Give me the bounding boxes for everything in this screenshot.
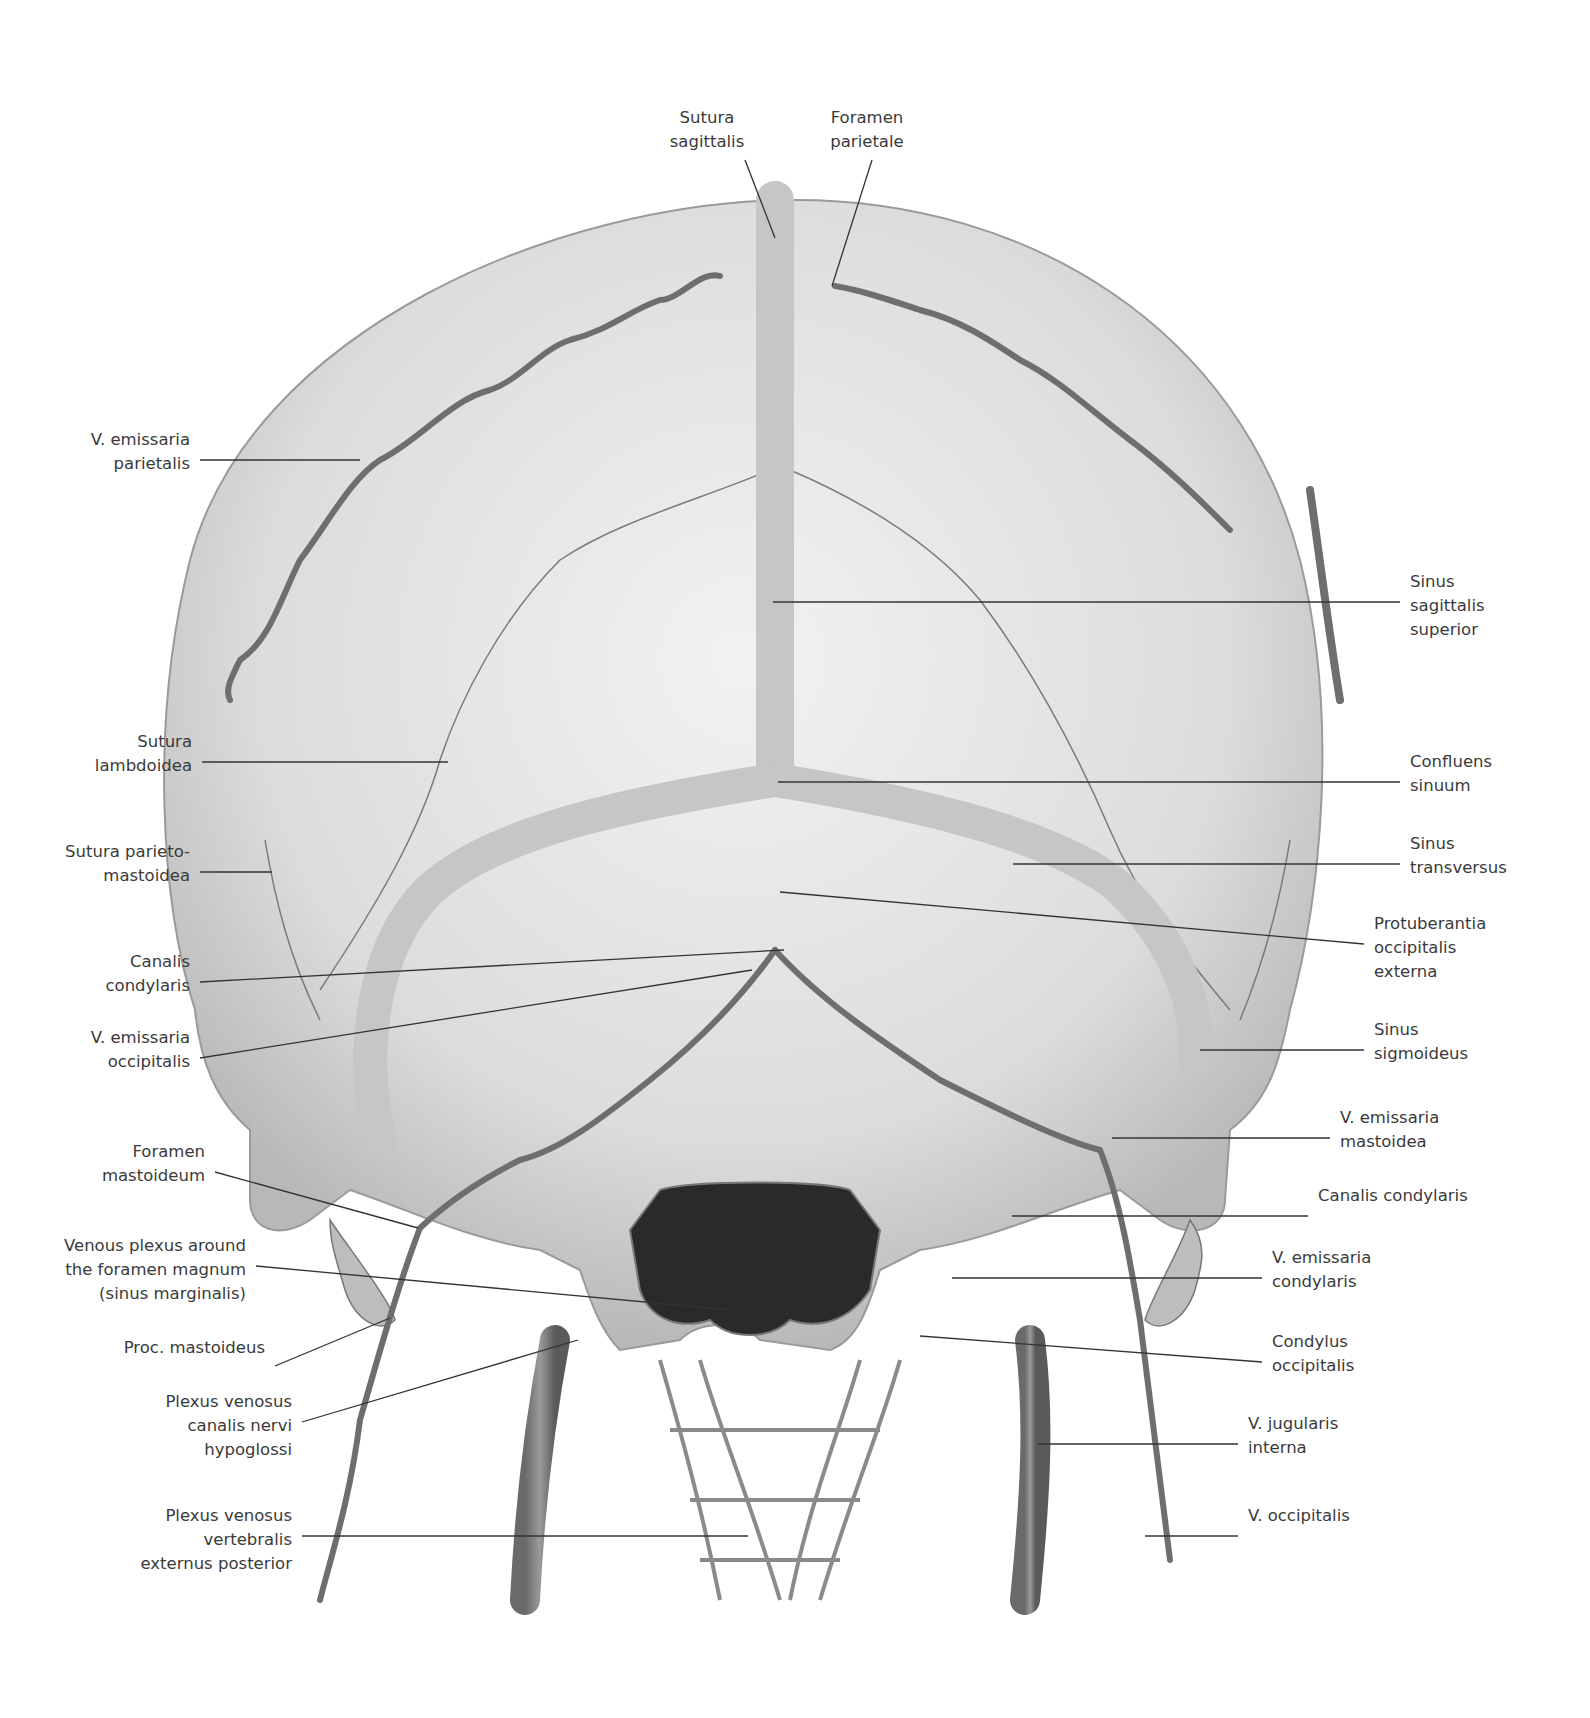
label-protuberantia-occipitalis-externa: Protuberantia occipitalis externa xyxy=(1374,912,1486,984)
label-foramen-parietale: Foramen parietale xyxy=(797,106,937,154)
label-plexus-venosus-vertebralis: Plexus venosus vertebralis externus post… xyxy=(140,1504,292,1576)
label-condylus-occipitalis: Condylus occipitalis xyxy=(1272,1330,1354,1378)
label-v-emissaria-parietalis: V. emissaria parietalis xyxy=(91,428,190,476)
label-sinus-sigmoideus: Sinus sigmoideus xyxy=(1374,1018,1468,1066)
label-sinus-transversus: Sinus transversus xyxy=(1410,832,1507,880)
label-sutura-sagittalis: Sutura sagittalis xyxy=(637,106,777,154)
label-plexus-venosus-canalis-hypoglossi: Plexus venosus canalis nervi hypoglossi xyxy=(165,1390,292,1462)
label-proc-mastoideus: Proc. mastoideus xyxy=(124,1336,265,1360)
vertebral-venous-plexus xyxy=(660,1360,900,1600)
anatomical-figure: Sutura sagittalisForamen parietaleV. emi… xyxy=(0,0,1590,1718)
label-foramen-mastoideum: Foramen mastoideum xyxy=(102,1140,205,1188)
label-sutura-lambdoidea: Sutura lambdoidea xyxy=(95,730,192,778)
leader-line-condylus-occipitalis xyxy=(920,1336,1262,1362)
label-v-emissaria-occipitalis: V. emissaria occipitalis xyxy=(91,1026,190,1074)
label-sutura-parietomastoidea: Sutura parieto- mastoidea xyxy=(65,840,190,888)
label-canalis-condylaris-left: Canalis condylaris xyxy=(105,950,190,998)
label-sinus-sagittalis-superior: Sinus sagittalis superior xyxy=(1410,570,1485,642)
leader-line-proc-mastoideus xyxy=(275,1318,390,1366)
label-canalis-condylaris-right: Canalis condylaris xyxy=(1318,1184,1468,1208)
label-v-occipitalis: V. occipitalis xyxy=(1248,1504,1350,1528)
label-confluens-sinuum: Confluens sinuum xyxy=(1410,750,1492,798)
label-v-emissaria-condylaris: V. emissaria condylaris xyxy=(1272,1246,1371,1294)
label-venous-plexus-foramen-magnum: Venous plexus around the foramen magnum … xyxy=(64,1234,246,1306)
label-v-jugularis-interna: V. jugularis interna xyxy=(1248,1412,1338,1460)
label-v-emissaria-mastoidea: V. emissaria mastoidea xyxy=(1340,1106,1439,1154)
